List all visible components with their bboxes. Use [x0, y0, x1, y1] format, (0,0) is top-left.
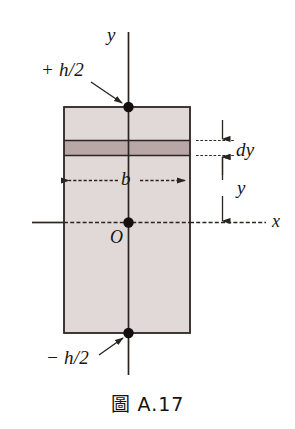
strip-thickness-label: dy	[236, 140, 254, 159]
figure-caption-number: A.17	[138, 393, 185, 415]
strip-distance-label: y	[237, 178, 246, 197]
y-axis-label: y	[107, 25, 116, 44]
top-fiber-point	[123, 102, 133, 112]
bottom-fiber-label: − h/2	[46, 348, 89, 367]
figure-caption: 圖 A.17	[0, 394, 295, 415]
plus-h2-leader-line	[91, 82, 122, 103]
figure-a17: y x + h/2 − h/2 b dy y O 圖 A.17	[0, 0, 295, 429]
figure-caption-label: 圖	[111, 393, 131, 415]
width-dimension-label: b	[121, 169, 131, 188]
element-strip-fill	[64, 140, 190, 155]
top-fiber-label: + h/2	[41, 60, 84, 79]
origin-point	[123, 217, 133, 227]
origin-label: O	[110, 228, 123, 246]
x-axis-label: x	[272, 212, 280, 230]
minus-h2-leader-line	[99, 338, 123, 355]
bottom-fiber-point	[123, 328, 133, 338]
